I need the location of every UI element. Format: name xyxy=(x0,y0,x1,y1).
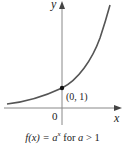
origin-label: 0 xyxy=(52,110,58,122)
point-label: (0, 1) xyxy=(66,91,88,102)
caption-for: for xyxy=(61,132,79,143)
intercept-point xyxy=(60,86,64,90)
caption-condition: > 1 xyxy=(83,132,99,143)
y-axis-label: y xyxy=(51,0,56,12)
y-axis-arrow-icon xyxy=(59,1,65,9)
caption: f(x) = ax for a > 1 xyxy=(0,130,125,143)
x-axis-label: x xyxy=(114,111,119,126)
exponential-graph xyxy=(0,0,125,147)
caption-prefix: f(x) = xyxy=(25,132,52,143)
exponential-curve xyxy=(7,5,110,104)
